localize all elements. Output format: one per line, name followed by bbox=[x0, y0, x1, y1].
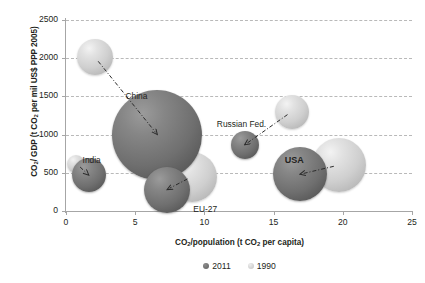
gridline-y-2000 bbox=[66, 58, 412, 59]
chart-legend: 20111990 bbox=[66, 261, 413, 271]
x-tick-label-15: 15 bbox=[259, 218, 289, 227]
legend-label-1990: 1990 bbox=[257, 261, 276, 271]
y-tick-mark-1500 bbox=[62, 96, 66, 97]
bubble-eu-27-2011[interactable] bbox=[144, 167, 190, 213]
plot-area: 05001000150020002500 0510152025 ChinaInd… bbox=[66, 20, 412, 211]
y-tick-label-1500: 1500 bbox=[18, 91, 58, 100]
label-india: India bbox=[83, 156, 101, 164]
bubble-chart-figure: CO2/ GDP (t CO2 per mil US$ PPP 2005) CO… bbox=[0, 0, 425, 283]
y-tick-mark-2000 bbox=[62, 58, 66, 59]
gridline-y-1500 bbox=[66, 96, 412, 97]
legend-label-2011: 2011 bbox=[212, 261, 230, 271]
x-tick-mark-20 bbox=[343, 211, 344, 215]
bubble-russian-fed-1990[interactable] bbox=[275, 95, 309, 129]
x-tick-label-25: 25 bbox=[397, 218, 425, 227]
bubble-russian-fed-2011[interactable] bbox=[231, 131, 259, 159]
x-tick-label-10: 10 bbox=[189, 218, 219, 227]
legend-swatch-1990 bbox=[248, 263, 254, 269]
gridline-y-2500 bbox=[66, 20, 412, 21]
label-usa: USA bbox=[285, 156, 304, 165]
y-axis-line bbox=[65, 18, 66, 213]
y-tick-mark-500 bbox=[62, 173, 66, 174]
y-tick-label-2500: 2500 bbox=[18, 15, 58, 24]
label-russian-fed: Russian Fed. bbox=[217, 120, 266, 128]
y-tick-mark-2500 bbox=[62, 20, 66, 21]
y-tick-label-2000: 2000 bbox=[18, 53, 58, 62]
x-tick-mark-15 bbox=[274, 211, 275, 215]
x-tick-label-20: 20 bbox=[328, 218, 358, 227]
y-tick-label-500: 500 bbox=[18, 168, 58, 177]
legend-swatch-2011 bbox=[203, 263, 209, 269]
y-tick-label-0: 0 bbox=[18, 206, 58, 215]
x-axis-title: CO2/population (t CO2 per capita) bbox=[66, 238, 413, 247]
label-eu-27: EU-27 bbox=[193, 205, 217, 213]
x-tick-label-5: 5 bbox=[120, 218, 150, 227]
bubble-china-2011[interactable] bbox=[112, 90, 202, 180]
x-axis-line bbox=[65, 211, 413, 212]
x-tick-mark-5 bbox=[135, 211, 136, 215]
y-tick-mark-1000 bbox=[62, 135, 66, 136]
label-china: China bbox=[126, 92, 148, 100]
x-tick-mark-25 bbox=[412, 211, 413, 215]
bubble-china-1990[interactable] bbox=[77, 39, 113, 75]
legend-entry-2011[interactable]: 2011 bbox=[203, 261, 230, 271]
x-tick-mark-0 bbox=[66, 211, 67, 215]
y-tick-label-1000: 1000 bbox=[18, 130, 58, 139]
legend-entry-1990[interactable]: 1990 bbox=[248, 261, 276, 271]
x-tick-label-0: 0 bbox=[51, 218, 81, 227]
